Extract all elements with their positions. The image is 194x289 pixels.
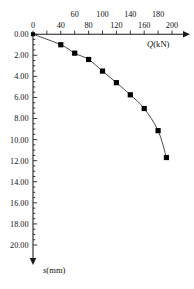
x-axis-ticks — [33, 31, 172, 35]
data-point-markers — [31, 32, 169, 160]
data-point-marker — [58, 42, 63, 47]
data-point-marker — [128, 92, 133, 97]
data-point-marker — [164, 155, 169, 160]
x-axis-title-unit: (kN) — [153, 39, 169, 49]
x-tick-label: 180 — [152, 10, 164, 19]
y-tick-label: 0.00 — [14, 30, 28, 39]
x-axis-arrow-icon — [183, 31, 190, 38]
y-tick-label: 4.00 — [14, 72, 28, 81]
data-point-marker — [72, 51, 77, 56]
x-tick-label: 100 — [96, 10, 108, 19]
y-tick-label: 2.00 — [14, 51, 28, 60]
x-tick-label: 40 — [57, 21, 65, 30]
data-point-marker — [100, 68, 105, 73]
x-tick-label: 0 — [31, 21, 35, 30]
y-tick-label: 6.00 — [14, 93, 28, 102]
load-settlement-chart: 0406080100120140160180200 Q(kN) 0.002.00… — [0, 0, 194, 289]
x-tick-label: 60 — [71, 10, 79, 19]
load-settlement-curve — [33, 34, 166, 157]
chart-canvas: 0406080100120140160180200 Q(kN) 0.002.00… — [0, 0, 194, 289]
data-point-marker — [31, 32, 35, 36]
x-tick-label: 160 — [138, 21, 150, 30]
y-tick-label: 14.00 — [10, 178, 28, 187]
x-axis-tick-labels: 0406080100120140160180200 — [31, 10, 178, 31]
y-tick-label: 12.00 — [10, 157, 28, 166]
y-tick-label: 10.00 — [10, 136, 28, 145]
y-axis-title: s(mm) — [43, 265, 66, 275]
x-tick-label: 120 — [110, 21, 122, 30]
y-tick-label: 8.00 — [14, 114, 28, 123]
data-series — [31, 32, 169, 160]
y-tick-label: 18.00 — [10, 220, 28, 229]
data-point-marker — [114, 80, 119, 85]
data-point-marker — [156, 128, 161, 133]
y-tick-label: 16.00 — [10, 199, 28, 208]
y-axis-tick-labels: 0.002.004.006.008.0010.0012.0014.0016.00… — [10, 30, 28, 250]
data-point-marker — [142, 106, 147, 111]
x-tick-label: 200 — [166, 21, 178, 30]
data-point-marker — [86, 57, 91, 62]
x-tick-label: 80 — [85, 21, 93, 30]
y-axis: 0.002.004.006.008.0010.0012.0014.0016.00… — [10, 30, 66, 275]
x-axis-title: Q(kN) — [147, 39, 170, 49]
y-tick-label: 20.00 — [10, 241, 28, 250]
y-axis-title-unit: (mm) — [46, 265, 65, 275]
y-axis-arrow-icon — [30, 258, 37, 265]
x-tick-label: 140 — [124, 10, 136, 19]
